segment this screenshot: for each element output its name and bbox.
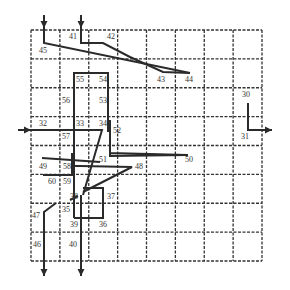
node-label: 33 <box>76 120 84 128</box>
node-label: 37 <box>107 193 115 201</box>
node-label: 34 <box>99 120 107 128</box>
node-label: 46 <box>33 241 41 249</box>
node-label: 31 <box>241 133 249 141</box>
node-label: 38 <box>70 193 78 201</box>
path-net-41-43 <box>81 15 190 73</box>
node-label: 40 <box>69 241 77 249</box>
arrow-down-icon <box>78 269 85 276</box>
path-net-35-47-46 <box>44 203 56 276</box>
node-label: 53 <box>99 97 107 105</box>
arrow-down-icon <box>41 21 48 28</box>
arrow-down-icon <box>41 269 48 276</box>
node-label: 43 <box>157 76 165 84</box>
arrow-right-icon <box>24 127 31 134</box>
node-label: 36 <box>99 221 107 229</box>
node-label: 44 <box>185 76 193 84</box>
node-label: 58 <box>63 163 71 171</box>
node-label: 32 <box>39 120 47 128</box>
node-label: 60 <box>48 178 56 186</box>
node-label: 51 <box>99 156 107 164</box>
node-label: 48 <box>135 163 143 171</box>
node-label: 45 <box>39 47 47 55</box>
node-label: 50 <box>185 156 193 164</box>
diagram-svg <box>0 0 290 290</box>
node-label: 56 <box>62 97 70 105</box>
node-label: 49 <box>39 163 47 171</box>
node-label: 47 <box>32 212 40 220</box>
node-label: 35 <box>62 206 70 214</box>
node-label: 52 <box>113 127 121 135</box>
node-label: 59 <box>63 178 71 186</box>
arrow-down-icon <box>78 21 85 28</box>
node-label: 42 <box>107 33 115 41</box>
path-net-52-51-50 <box>110 120 188 156</box>
node-label: 57 <box>62 133 70 141</box>
node-label: 41 <box>69 33 77 41</box>
arrow-right-icon <box>265 127 272 134</box>
node-label: 30 <box>242 91 250 99</box>
node-label: 39 <box>70 221 78 229</box>
grid-routing-diagram: 4142454344555456533031323334525751504849… <box>0 0 290 290</box>
node-label: 54 <box>99 76 107 84</box>
node-label: 55 <box>76 76 84 84</box>
